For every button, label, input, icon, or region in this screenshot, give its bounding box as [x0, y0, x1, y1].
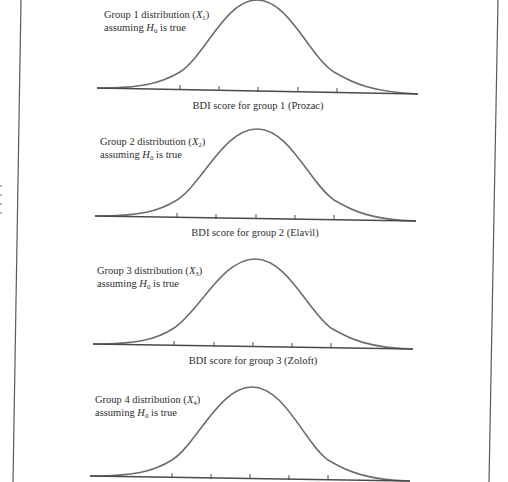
annotation-group-4: Group 4 distribution (X4) assuming H0 is… — [95, 393, 200, 419]
x-axis-label-group-1: BDI score for group 1 (Prozac) — [193, 100, 324, 111]
distribution-figure — [0, 0, 508, 482]
left-border-line — [13, 0, 21, 482]
x-axis-label-group-2: BDI score for group 2 (Elavil) — [191, 227, 318, 238]
annotation-group-2: Group 2 distribution (X2) assuming H0 is… — [100, 135, 205, 161]
annotation-group-1: Group 1 distribution (X1) assuming H0 is… — [104, 8, 209, 34]
right-border-line — [489, 0, 498, 482]
margin-marks — [0, 185, 4, 221]
annotation-group-3: Group 3 distribution (X3) assuming H0 is… — [97, 264, 202, 290]
x-axis-label-group-3: BDI score for group 3 (Zoloft) — [189, 355, 318, 366]
